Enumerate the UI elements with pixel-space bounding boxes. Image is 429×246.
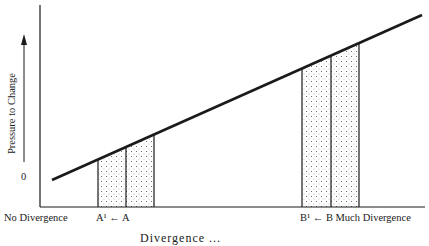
x-left-label: No Divergence xyxy=(4,213,68,224)
b-label: B¹ ← B Much Divergence xyxy=(300,213,411,224)
a-label: A¹ ← A xyxy=(96,213,129,224)
up-arrow-icon xyxy=(21,34,27,45)
y-origin-label: 0 xyxy=(21,172,26,183)
y-axis-label: Pressure to Change xyxy=(6,64,17,164)
pressure-line xyxy=(52,15,422,180)
figure-caption: Divergence ... xyxy=(140,231,221,246)
